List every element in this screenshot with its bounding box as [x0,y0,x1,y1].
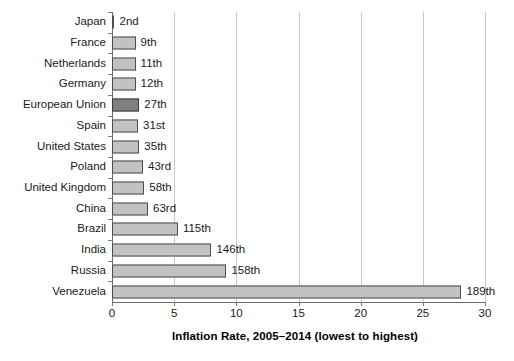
x-axis-tick [361,302,362,306]
y-axis-tick [108,95,112,96]
y-axis-tick [108,157,112,158]
x-axis-title: Inflation Rate, 2005–2014 (lowest to hig… [0,330,514,342]
rank-label: 12th [141,79,163,91]
bar [112,78,136,91]
category-label: Poland [70,162,106,174]
category-label: France [70,37,106,49]
rank-label: 9th [141,37,157,49]
rank-label: 27th [144,99,166,111]
y-axis-tick [108,219,112,220]
category-label: United States [37,141,106,153]
plot-area: Japan2ndFrance9thNetherlands11thGermany1… [112,12,485,302]
x-axis-title-text: Inflation Rate, 2005–2014 (lowest to hig… [172,330,418,342]
category-label: Venezuela [52,286,106,298]
rank-label: 146th [216,244,245,256]
bar [112,264,226,277]
chart-row: Germany12th [112,74,485,95]
rank-label: 2nd [119,17,138,29]
rank-label: 115th [183,224,211,236]
x-axis-tick [112,302,113,306]
category-label: Japan [75,17,106,29]
chart-row: India146th [112,240,485,261]
chart-row: Venezuela189th [112,281,485,302]
x-axis-tick-label: 25 [416,308,429,320]
y-axis-tick [108,261,112,262]
category-label: European Union [23,99,106,111]
bar [112,99,139,112]
category-label: Germany [59,79,106,91]
rank-label: 35th [144,141,166,153]
chart-row: Russia158th [112,261,485,282]
rank-label: 31st [143,120,165,132]
x-axis-tick-label: 0 [109,308,115,320]
category-label: Russia [71,265,106,277]
chart-row: European Union27th [112,95,485,116]
category-label: Netherlands [44,58,106,70]
y-axis-tick [108,33,112,34]
category-label: China [76,203,106,215]
x-axis-tick [174,302,175,306]
y-axis-tick [108,178,112,179]
y-axis-tick [108,240,112,241]
bar [112,37,136,50]
bar [112,202,148,215]
category-label: United Kingdom [24,182,106,194]
category-label: Brazil [77,224,106,236]
bar [112,182,144,195]
bar [112,57,136,70]
y-axis-tick [108,116,112,117]
y-axis-tick [108,281,112,282]
rank-label: 58th [149,182,171,194]
y-axis-tick [108,12,112,13]
y-axis-tick [108,74,112,75]
bar [112,16,114,29]
bar [112,285,461,298]
rank-label: 11th [141,58,163,70]
rank-label: 189th [466,286,495,298]
bar [112,223,178,236]
chart-row: France9th [112,33,485,54]
chart-row: Spain31st [112,116,485,137]
chart-row: Netherlands11th [112,53,485,74]
bar [112,119,138,132]
x-axis-tick [236,302,237,306]
x-axis-tick [299,302,300,306]
x-axis-tick [423,302,424,306]
rank-label: 43rd [148,162,171,174]
chart-row: Poland43rd [112,157,485,178]
bar [112,244,211,257]
x-axis-tick-label: 30 [479,308,492,320]
rank-label: 63rd [153,203,176,215]
chart-row: China63rd [112,198,485,219]
x-axis-tick [485,302,486,306]
y-axis-tick [108,198,112,199]
category-label: India [81,244,106,256]
rank-label: 158th [231,265,260,277]
bar [112,161,143,174]
inflation-rate-bar-chart: Japan2ndFrance9thNetherlands11thGermany1… [0,0,514,361]
x-axis-tick-label: 10 [230,308,243,320]
x-axis-tick-label: 20 [354,308,367,320]
y-axis-tick [108,53,112,54]
x-axis-tick-label: 5 [171,308,177,320]
chart-row: Japan2nd [112,12,485,33]
bar [112,140,139,153]
x-axis-tick-label: 15 [292,308,305,320]
chart-row: United Kingdom58th [112,178,485,199]
gridline [485,12,486,302]
y-axis-tick [108,136,112,137]
chart-row: United States35th [112,136,485,157]
chart-row: Brazil115th [112,219,485,240]
category-label: Spain [77,120,106,132]
